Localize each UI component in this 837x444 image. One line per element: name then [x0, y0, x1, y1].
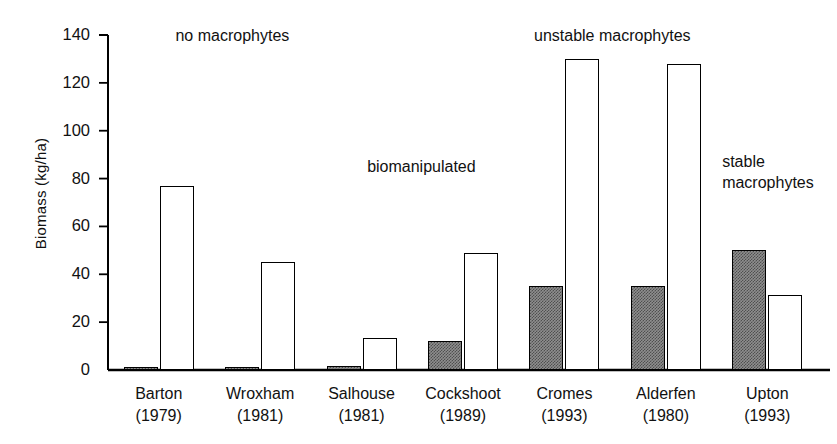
annotation-stable: stable macrophytes — [722, 151, 814, 193]
x-axis-label-name: Upton — [717, 383, 818, 405]
bar-salhouse-open — [363, 338, 397, 370]
x-axis-label-year: (1979) — [108, 405, 209, 427]
x-axis-label-cockshoot: Cockshoot(1989) — [412, 383, 513, 427]
x-axis-label-year: (1981) — [311, 405, 412, 427]
y-axis-tick-label: 40 — [44, 265, 90, 281]
bar-cockshoot-shaded — [428, 341, 462, 370]
x-axis-label-year: (1980) — [615, 405, 716, 427]
bar-cromes-shaded — [529, 286, 563, 370]
x-axis-label-name: Wroxham — [209, 383, 310, 405]
bar-wroxham-shaded — [225, 367, 259, 370]
bar-upton-open — [768, 295, 802, 370]
x-axis-label-name: Cromes — [514, 383, 615, 405]
y-axis-tick-label: 140 — [44, 26, 90, 42]
x-axis-category-labels: Barton(1979)Wroxham(1981)Salhouse(1981)C… — [108, 383, 818, 443]
x-axis-label-name: Barton — [108, 383, 209, 405]
x-axis-label-upton: Upton(1993) — [717, 383, 818, 427]
bar-salhouse-shaded — [327, 366, 361, 370]
bar-upton-shaded — [732, 250, 766, 370]
bar-barton-open — [160, 186, 194, 370]
x-axis-label-year: (1981) — [209, 405, 310, 427]
x-axis-label-wroxham: Wroxham(1981) — [209, 383, 310, 427]
y-axis-tick-label: 60 — [44, 217, 90, 233]
x-axis-label-year: (1993) — [514, 405, 615, 427]
bar-cromes-open — [565, 59, 599, 370]
bar-wroxham-open — [261, 262, 295, 370]
x-axis-label-year: (1989) — [412, 405, 513, 427]
x-axis-label-cromes: Cromes(1993) — [514, 383, 615, 427]
plot-area — [108, 35, 818, 370]
x-axis-label-salhouse: Salhouse(1981) — [311, 383, 412, 427]
bar-alderfen-open — [667, 64, 701, 370]
annotation-unstable: unstable macrophytes — [534, 25, 691, 46]
bar-alderfen-shaded — [631, 286, 665, 370]
x-axis-label-barton: Barton(1979) — [108, 383, 209, 427]
x-axis-label-name: Cockshoot — [412, 383, 513, 405]
x-axis-label-year: (1993) — [717, 405, 818, 427]
y-axis-tick-labels: 020406080100120140 — [34, 0, 90, 444]
annotation-biomanipulated: biomanipulated — [367, 156, 476, 177]
y-axis-tick-label: 0 — [44, 361, 90, 377]
x-axis-label-name: Alderfen — [615, 383, 716, 405]
annotation-no: no macrophytes — [175, 25, 289, 46]
y-axis-tick-label: 100 — [44, 122, 90, 138]
bar-barton-shaded — [124, 367, 158, 370]
y-axis-tick-label: 20 — [44, 313, 90, 329]
bar-cockshoot-open — [464, 253, 498, 370]
x-axis-label-alderfen: Alderfen(1980) — [615, 383, 716, 427]
y-axis-tick-label: 80 — [44, 170, 90, 186]
chart-figure: Biomass (kg/ha) 020406080100120140 Barto… — [0, 0, 837, 444]
x-axis-label-name: Salhouse — [311, 383, 412, 405]
y-axis-tick-label: 120 — [44, 74, 90, 90]
